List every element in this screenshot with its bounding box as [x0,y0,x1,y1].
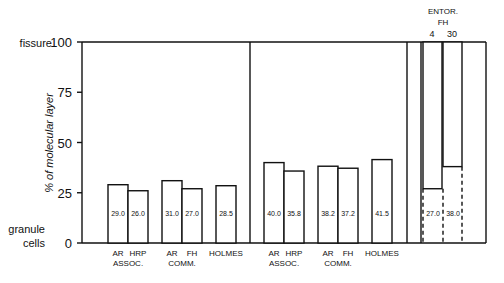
entor-bar-value-label: 38.0 [446,210,460,217]
bar-value-label: 31.0 [165,210,179,217]
bar-value-label: 26.0 [131,210,145,217]
bar-value-label: 28.5 [219,210,233,217]
bar-value-label: 35.8 [287,210,301,217]
bar-value-label: 37.2 [341,210,355,217]
bar-value-label: 27.0 [185,210,199,217]
bar-category-label: AR [112,249,123,258]
bar [338,168,358,243]
group-label: ASSOC. [269,259,299,268]
y-axis-title: % of molecular layer [43,92,55,193]
y-bottom-label: granule [8,223,45,235]
bar-category-label: HRP [130,249,147,258]
group-label: COMM. [168,259,196,268]
bar-category-label: AR [322,249,333,258]
entor-bar [423,42,442,189]
entor-header: ENTOR. [428,7,458,16]
bar-category-label: FH [187,249,198,258]
entor-header: FH [438,18,449,27]
entor-bar-label: 4 [429,29,434,39]
group-label: ASSOC. [113,259,143,268]
bar-value-label: 29.0 [111,210,125,217]
y-tick-label: 100 [50,35,72,50]
y-bottom-label: cells [23,237,46,249]
bar-category-label: FH [343,249,354,258]
bar-value-label: 38.2 [321,210,335,217]
bar-category-label: HOLMES [365,249,399,258]
entor-bar-label: 30 [447,29,457,39]
group-label: COMM. [324,259,352,268]
bar-category-label: AR [268,249,279,258]
bar [284,171,304,243]
y-tick-label: 25 [58,186,72,201]
bar-category-label: HRP [286,249,303,258]
entor-bar [443,42,462,167]
y-tick-label: 50 [58,136,72,151]
bar [264,163,284,243]
bar-value-label: 40.0 [267,210,281,217]
bar-value-label: 41.5 [375,210,389,217]
bar [318,166,338,243]
bar-category-label: AR [166,249,177,258]
entor-bar-value-label: 27.0 [426,210,440,217]
y-top-label: fissure [20,37,52,49]
y-tick-label: 75 [58,85,72,100]
chart: 0255075100fissuregranulecells% of molecu… [0,0,504,283]
y-tick-label: 0 [65,236,72,251]
bar [372,160,392,243]
bar-category-label: HOLMES [209,249,243,258]
